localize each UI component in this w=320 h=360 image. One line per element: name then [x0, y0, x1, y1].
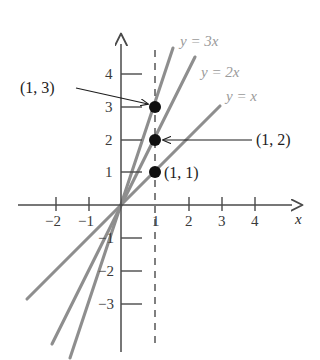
line-label-y-3x: y = 3x: [180, 34, 218, 49]
point-1-1[interactable]: [149, 166, 161, 178]
y-tick-label--2: −2: [98, 264, 114, 279]
x-tick-label-4: 4: [251, 214, 259, 229]
point-label-1-2: (1, 2): [256, 132, 291, 148]
coordinate-plane-svg: [0, 0, 320, 360]
x-tick-label--2: −2: [45, 214, 61, 229]
x-tick-label-1: 1: [152, 214, 160, 229]
y-tick-label-3: 3: [105, 100, 113, 115]
y-tick-label-2: 2: [105, 133, 113, 148]
x-tick-label-3: 3: [218, 214, 226, 229]
y-tick-label-1: 1: [105, 165, 113, 180]
y-tick-label--3: −3: [98, 297, 114, 312]
point-label-1-3: (1, 3): [20, 80, 55, 96]
line-label-y-x: y = x: [226, 89, 257, 104]
line-label-y-2x: y = 2x: [201, 65, 239, 80]
graph-figure: y = 3x y = 2x y = x (1, 3) (1, 2) (1, 1)…: [0, 0, 320, 360]
x-axis-label: x: [295, 212, 302, 227]
x-tick-label-2: 2: [185, 214, 193, 229]
point-1-2[interactable]: [149, 134, 161, 146]
point-label-1-1: (1, 1): [164, 165, 199, 181]
y-tick-label-4: 4: [105, 67, 113, 82]
x-tick-label--1: −1: [78, 214, 94, 229]
point-1-3[interactable]: [149, 101, 161, 113]
y-tick-label--1: −1: [98, 231, 114, 246]
